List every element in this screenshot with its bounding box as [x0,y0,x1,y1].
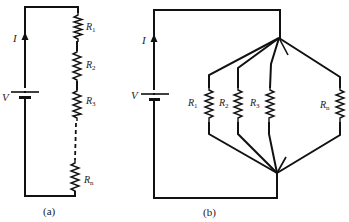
bottom-junction-wires [209,122,340,173]
resistor-r1-a [74,12,82,42]
wire-top-b [154,10,280,100]
caption-b: (b) [203,206,216,219]
voltage-label-b: V [131,89,139,101]
caption-a: (a) [43,205,56,218]
top-junction-wires [209,38,340,88]
battery-b [141,90,169,100]
current-arrow-icon [151,34,158,42]
label-r2-a: R2 [85,59,96,72]
panel-b-parallel-circuit: V I R1 R2 R3 Rn (b) [131,10,344,219]
label-r2-b: R2 [218,97,229,110]
resistor-r3-a [73,89,81,121]
wire-top-a [25,7,78,100]
resistor-r1-b [205,88,213,122]
resistor-r2-b [234,88,242,122]
voltage-label-a: V [2,91,10,103]
resistor-r3-b [266,88,274,122]
battery-a [11,88,39,98]
wire-bottom-a [25,100,75,196]
current-label-a: I [12,32,18,44]
panel-a-series-circuit: V I R1 R2 R3 Rn (a) [2,7,96,218]
label-r1-b: R1 [187,97,198,110]
current-arrow-icon [22,32,29,40]
label-r1-a: R1 [85,21,96,34]
label-r3-a: R3 [85,95,96,108]
resistor-r2-a [73,50,81,82]
resistor-rn-a [71,160,79,193]
label-r3-b: R3 [249,97,260,110]
label-rn-b: Rn [319,99,330,112]
label-rn-a: Rn [83,174,94,187]
current-label-b: I [141,34,147,46]
dashed-continuation [75,123,76,160]
resistor-rn-b [336,88,344,122]
wire-bottom-b [154,100,277,198]
circuit-diagram: V I R1 R2 R3 Rn (a) V [0,0,349,222]
